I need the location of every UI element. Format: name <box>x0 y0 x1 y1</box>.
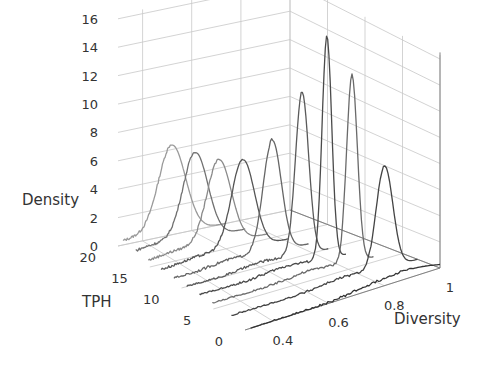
density-curve-tph-18 <box>136 153 246 251</box>
x-axis-title: Diversity <box>394 310 461 328</box>
density-curves <box>123 36 440 328</box>
x-tick-1: 1 <box>446 280 454 295</box>
x-tick-0.4: 0.4 <box>273 333 294 348</box>
z-tick-8: 8 <box>90 125 98 140</box>
y-tick-20: 20 <box>79 250 96 265</box>
z-tick-10: 10 <box>81 97 98 112</box>
y-tick-5: 5 <box>183 313 191 328</box>
x-tick-0.6: 0.6 <box>328 315 349 330</box>
z-tick-6: 6 <box>90 154 98 169</box>
z-tick-16: 16 <box>81 12 98 27</box>
tick-labels: 0246810121416051015200.40.60.81 <box>79 12 454 349</box>
z-tick-12: 12 <box>81 69 98 84</box>
plot-area: 0246810121416051015200.40.60.81 Density … <box>0 0 487 373</box>
z-tick-14: 14 <box>81 40 98 55</box>
y-tick-0: 0 <box>215 334 223 349</box>
y-tick-10: 10 <box>143 292 160 307</box>
z-tick-2: 2 <box>90 211 98 226</box>
y-axis-title: TPH <box>81 293 112 311</box>
density-curve-tph-8 <box>200 36 347 294</box>
z-axis-title: Density <box>22 191 79 209</box>
y-tick-15: 15 <box>111 271 128 286</box>
waterfall-density-chart: 0246810121416051015200.40.60.81 Density … <box>0 0 487 373</box>
z-tick-4: 4 <box>90 182 98 197</box>
